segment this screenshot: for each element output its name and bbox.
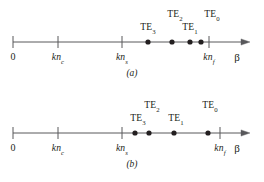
mode-label-TE2-subscript: 2: [156, 106, 160, 113]
mode-label-TE3-subscript: 3: [142, 119, 146, 126]
mode-label-TE0-subscript: 0: [216, 15, 220, 22]
axis-variable-label-text: β: [234, 51, 240, 63]
tick-label-k-n-cladding-subscript: c: [61, 58, 64, 65]
figure-root: (a) 0kncknsknfTE3TE2TE1TE0β (b) 0kncknsk…: [0, 0, 264, 182]
tick-label-k-n-cladding-text: kn: [52, 142, 61, 153]
tick-label-k-n-cladding: knc: [52, 143, 64, 153]
mode-dot-TE2: [169, 39, 174, 44]
tick-label-origin: 0: [10, 52, 15, 62]
tick-label-k-n-substrate-text: kn: [116, 142, 125, 153]
panel-caption-b: (b): [112, 159, 152, 169]
mode-dot-TE2: [146, 130, 151, 135]
axis-arrowhead: [241, 39, 250, 45]
mode-label-TE3-text: TE: [130, 112, 142, 123]
mode-label-TE2: TE2: [167, 9, 182, 19]
tick-label-k-n-film: knf: [214, 143, 225, 153]
tick-label-k-n-film-subscript: f: [224, 149, 226, 156]
mode-label-TE3: TE3: [140, 22, 155, 32]
tick-label-k-n-film-text: kn: [214, 142, 223, 153]
mode-label-TE1: TE1: [182, 22, 197, 32]
tick-label-k-n-film-text: kn: [203, 51, 212, 62]
tick-label-origin-text: 0: [10, 142, 15, 153]
mode-label-TE3-subscript: 3: [152, 28, 156, 35]
mode-dot-TE1: [171, 130, 176, 135]
tick-label-k-n-substrate-subscript: s: [125, 149, 128, 156]
mode-label-TE2: TE2: [144, 100, 159, 110]
tick-label-k-n-substrate-text: kn: [116, 51, 125, 62]
mode-label-TE0: TE0: [204, 9, 219, 19]
axis-variable-label-text: β: [234, 142, 240, 154]
mode-label-TE2-text: TE: [167, 8, 179, 19]
mode-label-TE1-text: TE: [168, 112, 180, 123]
tick-label-k-n-cladding-subscript: c: [61, 149, 64, 156]
tick-label-k-n-film: knf: [203, 52, 214, 62]
axis-variable-label: β: [234, 143, 240, 154]
axis-arrowhead: [241, 130, 250, 136]
mode-label-TE0-text: TE: [202, 99, 214, 110]
tick-label-k-n-film-subscript: f: [213, 58, 215, 65]
tick-label-k-n-cladding-text: kn: [52, 51, 61, 62]
tick-label-origin: 0: [10, 143, 15, 153]
mode-dot-TE1: [187, 39, 192, 44]
tick-label-k-n-substrate-subscript: s: [125, 58, 128, 65]
mode-label-TE1: TE1: [168, 113, 183, 123]
mode-label-TE0: TE0: [202, 100, 217, 110]
tick-label-k-n-cladding: knc: [52, 52, 64, 62]
axis-variable-label: β: [234, 52, 240, 63]
panel-b: (b) 0kncknsknfTE3TE2TE1TE0β: [0, 91, 264, 182]
tick-label-origin-text: 0: [10, 51, 15, 62]
tick-label-k-n-substrate: kns: [116, 143, 128, 153]
tick-label-k-n-substrate: kns: [116, 52, 128, 62]
mode-label-TE1-subscript: 1: [194, 28, 198, 35]
mode-label-TE3-text: TE: [140, 21, 152, 32]
mode-dot-TE3: [145, 39, 150, 44]
mode-dot-TE3: [132, 130, 137, 135]
mode-dot-TE0: [205, 130, 210, 135]
mode-label-TE1-text: TE: [182, 21, 194, 32]
mode-label-TE2-text: TE: [144, 99, 156, 110]
mode-label-TE0-text: TE: [204, 8, 216, 19]
mode-label-TE0-subscript: 0: [214, 106, 218, 113]
mode-label-TE1-subscript: 1: [180, 119, 184, 126]
mode-label-TE3: TE3: [130, 113, 145, 123]
panel-caption-a: (a): [112, 68, 152, 78]
mode-dot-TE0: [198, 39, 203, 44]
panel-a: (a) 0kncknsknfTE3TE2TE1TE0β: [0, 0, 264, 91]
